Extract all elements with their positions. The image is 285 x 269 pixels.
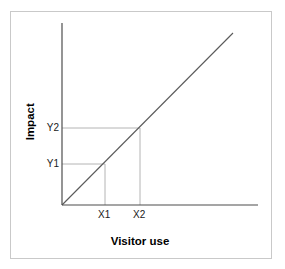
x-tick-label-x1: X1: [98, 210, 110, 220]
y-axis-title: Impact: [25, 89, 37, 155]
chart-figure: Y2 Y1 X1 X2 Impact Visitor use: [0, 0, 285, 269]
y-tick-label-y2: Y2: [47, 123, 59, 133]
y-tick-label-y1: Y1: [47, 159, 59, 169]
x-axis-title: Visitor use: [95, 236, 185, 248]
plot-area: [0, 0, 285, 269]
data-line-impact: [62, 33, 233, 205]
x-tick-label-x2: X2: [133, 210, 145, 220]
